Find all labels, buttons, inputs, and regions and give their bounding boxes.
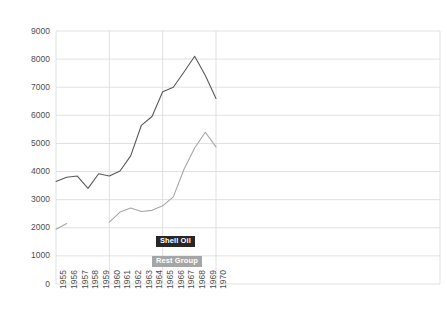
y-axis-tick-label: 0 (8, 280, 50, 289)
x-axis-tick-label: 1955 (59, 270, 68, 289)
y-axis-tick-label: 9000 (8, 27, 50, 36)
y-axis-tick-label: 4000 (8, 167, 50, 176)
data-series-lines (56, 56, 216, 229)
y-axis-tick-label: 3000 (8, 195, 50, 204)
x-axis-tick-label: 1970 (219, 270, 228, 289)
x-axis-tick-label: 1967 (187, 270, 196, 289)
x-axis-tick-label: 1963 (145, 270, 154, 289)
y-axis-tick-label: 2000 (8, 223, 50, 232)
series-line-rest-group (56, 224, 67, 230)
y-axis-tick-label: 5000 (8, 139, 50, 148)
series-line-shell-oil (56, 56, 216, 188)
vertical-gridlines (56, 31, 440, 284)
x-axis-tick-label: 1964 (155, 270, 164, 289)
x-axis-tick-label: 1957 (81, 270, 90, 289)
y-axis-tick-label: 6000 (8, 111, 50, 120)
x-axis-tick-label: 1968 (198, 270, 207, 289)
x-axis-tick-label: 1960 (113, 270, 122, 289)
x-axis-tick-label: 1958 (91, 270, 100, 289)
x-axis-tick-label: 1962 (134, 270, 143, 289)
horizontal-gridlines (56, 31, 440, 284)
x-axis-tick-label: 1966 (177, 270, 186, 289)
x-axis-tick-label: 1965 (166, 270, 175, 289)
x-axis-tick-label: 1969 (209, 270, 218, 289)
x-axis-tick-label: 1961 (123, 270, 132, 289)
x-axis-tick-label: 1959 (102, 270, 111, 289)
legend-item-rest-group: Rest Group (152, 256, 202, 267)
y-axis-tick-label: 7000 (8, 83, 50, 92)
legend-item-shell-oil: Shell Oil (156, 236, 195, 247)
chart-container: 0100020003000400050006000700080009000 19… (0, 0, 447, 325)
x-axis-tick-label: 1956 (70, 270, 79, 289)
y-axis-tick-label: 1000 (8, 251, 50, 260)
y-axis-tick-label: 8000 (8, 55, 50, 64)
